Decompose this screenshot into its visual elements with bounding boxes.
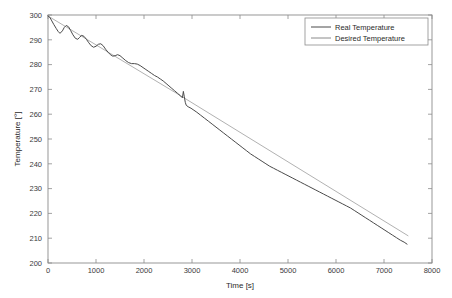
x-tick-label: 7000 — [376, 266, 393, 275]
y-tick-label: 200 — [29, 259, 42, 268]
y-tick-label: 270 — [29, 85, 42, 94]
y-tick-label: 290 — [29, 36, 42, 45]
y-tick-label: 250 — [29, 135, 42, 144]
x-axis-label: Time [s] — [226, 281, 254, 290]
y-tick-label: 220 — [29, 209, 42, 218]
legend-label-desired-temperature: Desired Temperature — [335, 34, 405, 43]
y-tick-label: 300 — [29, 11, 42, 20]
y-tick-label: 210 — [29, 234, 42, 243]
legend-label-real-temperature: Real Temperature — [335, 23, 394, 32]
x-tick-label: 4000 — [232, 266, 249, 275]
x-tick-label: 8000 — [424, 266, 441, 275]
y-axis-title: Temperature [°] — [13, 112, 22, 167]
temperature-chart: 010002000300040005000600070008000 200210… — [0, 0, 452, 298]
x-tick-label: 6000 — [328, 266, 345, 275]
y-tick-label: 240 — [29, 160, 42, 169]
x-tick-label: 3000 — [184, 266, 201, 275]
y-tick-label: 230 — [29, 184, 42, 193]
x-tick-label: 0 — [46, 266, 50, 275]
x-tick-label: 1000 — [88, 266, 105, 275]
chart-legend[interactable]: Real Temperature Desired Temperature — [305, 18, 428, 45]
y-tick-label: 260 — [29, 110, 42, 119]
x-tick-label: 5000 — [280, 266, 297, 275]
x-tick-label: 2000 — [136, 266, 153, 275]
y-axis-label: Temperature [°] — [13, 112, 22, 167]
y-tick-label: 280 — [29, 60, 42, 69]
x-axis-title: Time [s] — [226, 281, 254, 290]
